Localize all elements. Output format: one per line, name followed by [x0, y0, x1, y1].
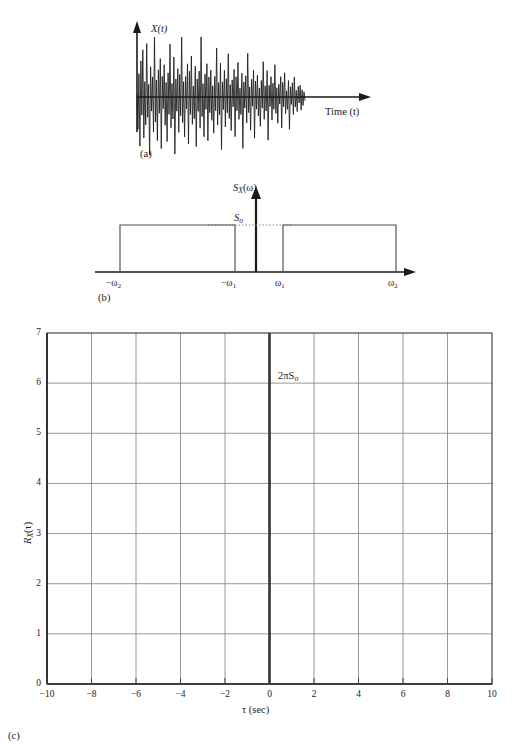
panel-c-x-tick-label--10: −10	[33, 689, 61, 699]
panel-c-x-tick-label-0: 0	[256, 689, 284, 699]
panel-c-autocorrelation: −10−8−6−4−20246810 01234567 2πSo RX(τ) τ…	[0, 312, 516, 747]
panel-c-caption: (c)	[8, 730, 20, 741]
panel-a-caption: (a)	[140, 148, 152, 159]
panel-c-x-tick-label--8: −8	[78, 689, 106, 699]
panel-c-y-tick-label-1: 1	[23, 628, 41, 638]
panel-c-x-tick-label--6: −6	[122, 689, 150, 699]
panel-c-y-tick-label-0: 0	[23, 678, 41, 688]
panel-b-y-axis-label: SX(ω)	[233, 182, 257, 195]
panel-c-y-axis-label: RX(τ)	[22, 522, 35, 544]
panel-a-plot	[0, 0, 516, 168]
panel-c-y-tick-label-4: 4	[23, 477, 41, 487]
panel-b-tick-neg-omega2: −ω2	[106, 278, 121, 289]
panel-a-time-series: X(t) Time (t) (a)	[0, 0, 516, 168]
panel-c-x-tick-label-8: 8	[434, 689, 462, 699]
panel-b-level-label: So	[234, 212, 243, 225]
panel-b-psd: SX(ω) So −ω2 −ω1 ω1 ω2 (b)	[0, 160, 516, 312]
panel-c-y-tick-label-5: 5	[23, 427, 41, 437]
panel-b-plot	[0, 160, 516, 312]
panel-b-x-axis-arrowhead	[404, 268, 416, 276]
panel-c-x-axis-label: τ (sec)	[242, 704, 269, 715]
panel-c-y-tick-label-2: 2	[23, 578, 41, 588]
panel-c-y-tick-label-6: 6	[23, 377, 41, 387]
panel-b-rectangle-positive-band	[283, 225, 396, 272]
panel-b-axes	[95, 186, 416, 276]
panel-a-x-axis-label: Time (t)	[325, 106, 359, 117]
panel-a-y-axis-arrowhead	[133, 21, 141, 33]
panel-c-x-tick-label--2: −2	[211, 689, 239, 699]
panel-b-tick-neg-omega1: −ω1	[221, 278, 236, 289]
panel-b-caption: (b)	[98, 292, 111, 303]
panel-c-x-tick-label-10: 10	[478, 689, 506, 699]
panel-a-x-axis-arrowhead	[359, 93, 371, 101]
panel-c-plot	[0, 312, 516, 747]
panel-c-y-tick-label-7: 7	[23, 327, 41, 337]
panel-c-x-tick-label--4: −4	[167, 689, 195, 699]
panel-b-tick-omega2: ω2	[388, 278, 398, 289]
panel-c-x-tick-label-6: 6	[389, 689, 417, 699]
panel-a-noise-trace	[137, 37, 305, 155]
panel-b-rectangle-negative-band	[120, 225, 235, 272]
panel-a-y-axis-label: X(t)	[151, 23, 167, 34]
panel-c-x-tick-label-2: 2	[300, 689, 328, 699]
figure-page: X(t) Time (t) (a) SX(ω) So	[0, 0, 516, 747]
panel-c-x-tick-label-4: 4	[345, 689, 373, 699]
panel-b-tick-omega1: ω1	[275, 278, 285, 289]
panel-c-impulse-label: 2πSo	[278, 370, 298, 383]
